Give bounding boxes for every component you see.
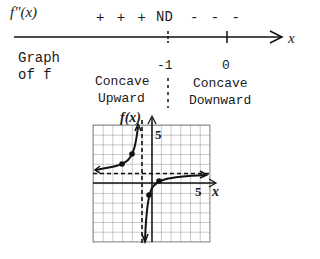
graph-y-tick-5: 5	[155, 127, 162, 143]
graph-y-axis-label: f(x)	[120, 110, 141, 126]
graph-x-tick-5: 5	[195, 184, 202, 200]
graph-x-axis-label: x	[212, 184, 219, 200]
